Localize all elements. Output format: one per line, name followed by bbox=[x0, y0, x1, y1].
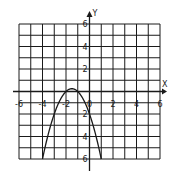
parabola-curve bbox=[43, 89, 102, 159]
y-tick-label: 6 bbox=[82, 20, 87, 29]
x-tick-labels: -6-4-20246 bbox=[15, 100, 163, 109]
x-tick-label: -6 bbox=[15, 100, 23, 109]
y-tick-label: 2 bbox=[82, 65, 87, 74]
x-axis-label: X bbox=[162, 80, 168, 89]
y-axis-label: Y bbox=[92, 9, 98, 18]
y-tick-label: 6 bbox=[82, 155, 87, 164]
x-axis-arrow-icon bbox=[162, 89, 167, 95]
x-tick-label: 4 bbox=[134, 100, 139, 109]
x-tick-label: -4 bbox=[39, 100, 47, 109]
x-tick-label: -2 bbox=[62, 100, 70, 109]
x-tick-label: 0 bbox=[87, 100, 92, 109]
y-tick-label: 4 bbox=[82, 133, 87, 142]
parabola-graph: -6-4-20246 642246 X Y bbox=[0, 0, 170, 187]
x-tick-label: 2 bbox=[110, 100, 115, 109]
y-tick-label: 4 bbox=[82, 43, 87, 52]
y-tick-label: 2 bbox=[82, 110, 87, 119]
x-tick-label: 6 bbox=[157, 100, 162, 109]
